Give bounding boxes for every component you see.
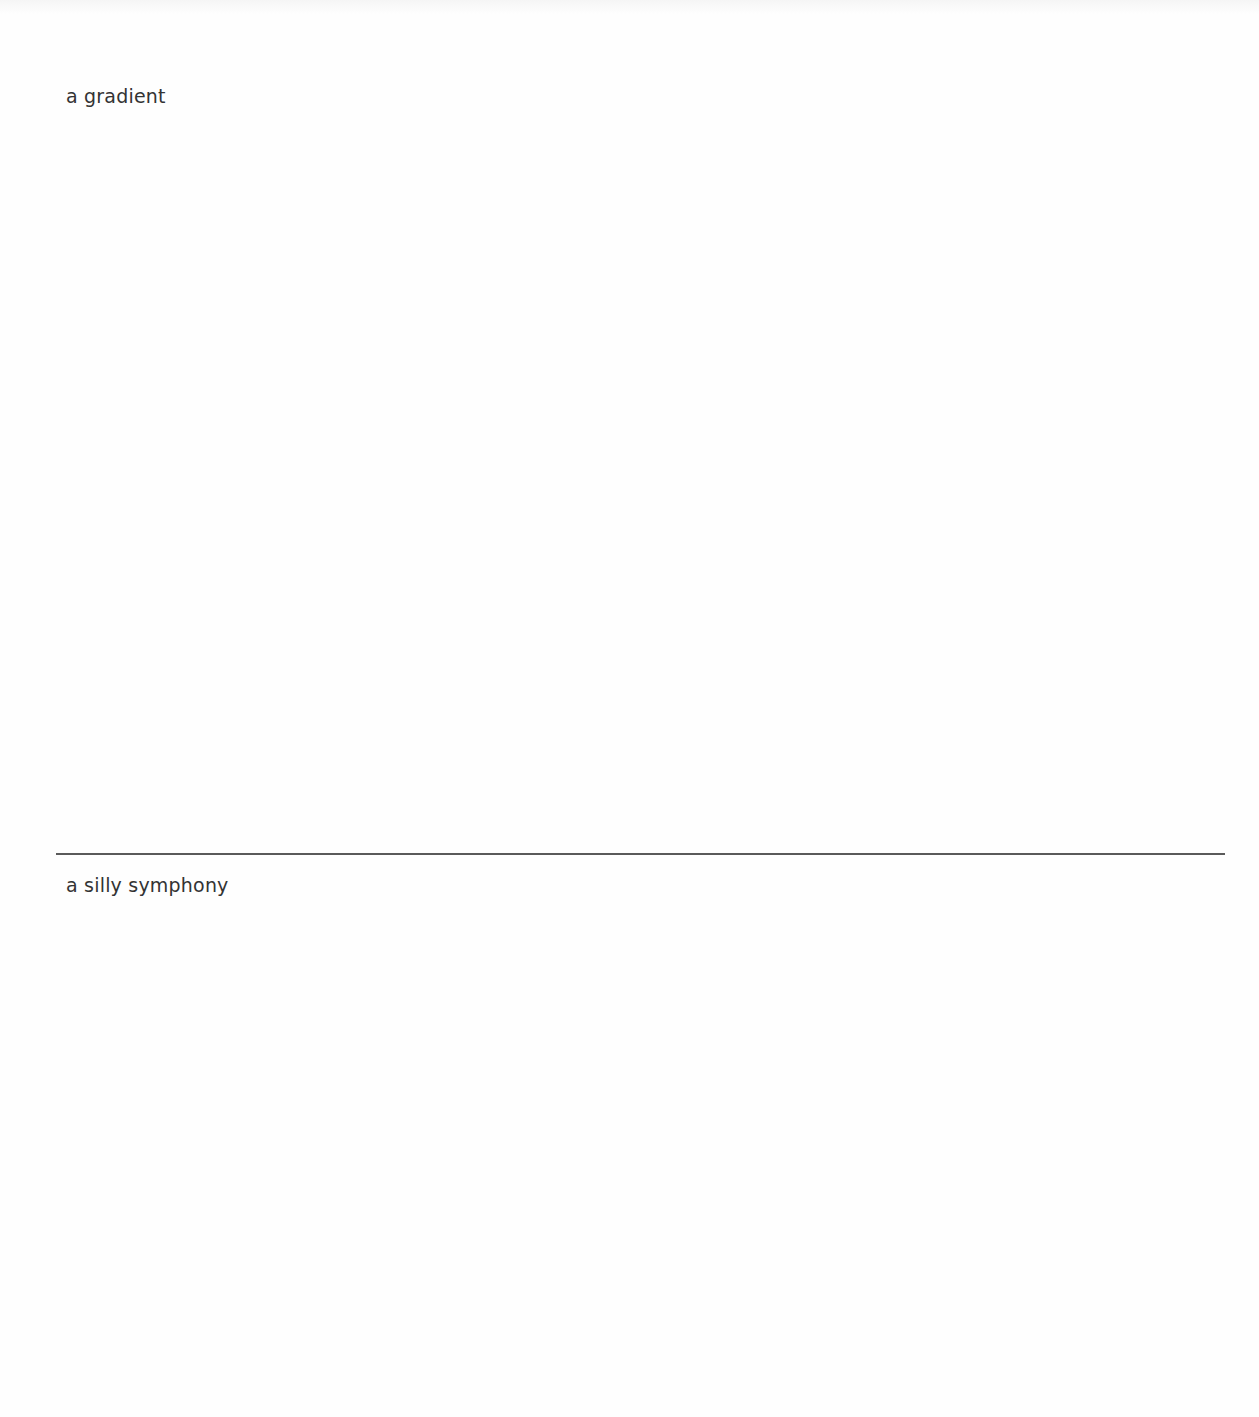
silly-symphony-section: a silly symphony (0, 856, 1259, 1417)
section-divider (56, 853, 1225, 855)
section-title-gradient: a gradient (66, 87, 166, 106)
gradient-section: a gradient (0, 0, 1259, 853)
section-title-silly-symphony: a silly symphony (66, 876, 229, 895)
